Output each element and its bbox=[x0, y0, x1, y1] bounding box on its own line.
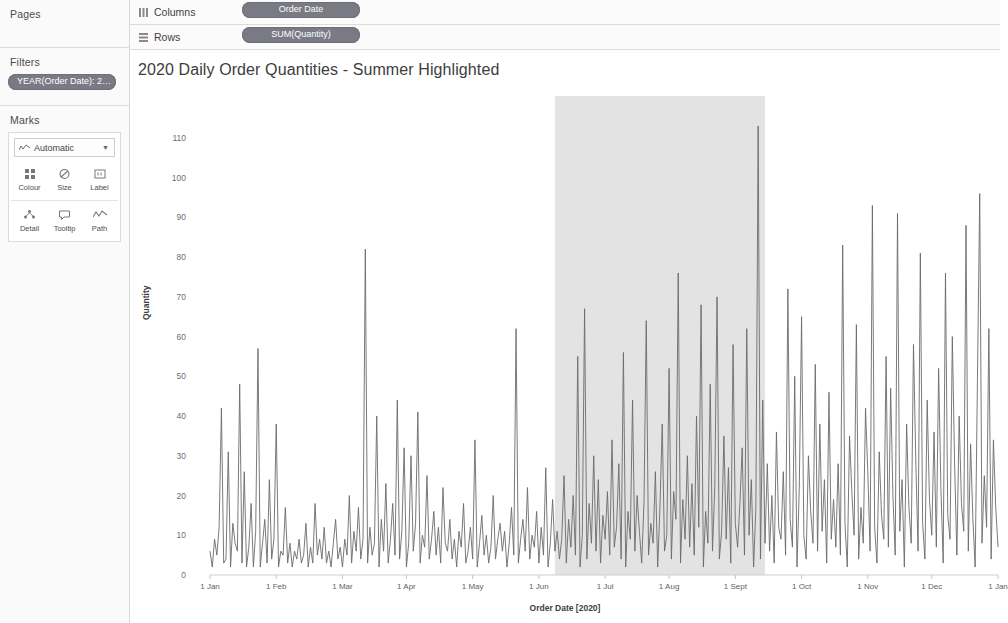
colour-icon bbox=[24, 167, 36, 181]
filters-shelf-title: Filters bbox=[10, 56, 121, 68]
line-chart bbox=[130, 50, 1000, 623]
rows-icon bbox=[137, 33, 149, 42]
viz-pane: 2020 Daily Order Quantities - Summer Hig… bbox=[130, 50, 1000, 623]
pill-order-date[interactable]: Order Date bbox=[242, 2, 360, 18]
filter-pill-year-order-date[interactable]: YEAR(Order Date): 2… bbox=[8, 74, 116, 90]
marks-label-label: Label bbox=[90, 183, 108, 192]
tooltip-icon bbox=[58, 208, 71, 222]
columns-icon bbox=[137, 8, 149, 17]
marks-size-label: Size bbox=[57, 183, 72, 192]
pages-shelf[interactable]: Pages bbox=[0, 0, 129, 48]
marks-size-button[interactable]: Size bbox=[47, 163, 82, 195]
marks-buttons-row-2: Detail Tooltip Path bbox=[9, 204, 120, 241]
marks-card-title: Marks bbox=[10, 114, 121, 126]
mark-type-dropdown[interactable]: Automatic ▼ bbox=[14, 138, 115, 157]
pages-shelf-title: Pages bbox=[10, 8, 121, 20]
left-sidebar: Pages Filters YEAR(Order Date): 2… Marks… bbox=[0, 0, 130, 623]
marks-colour-label: Colour bbox=[18, 183, 40, 192]
chevron-down-icon[interactable]: ▼ bbox=[102, 144, 109, 151]
rows-pill-wrap: SUM(Quantity) bbox=[242, 27, 360, 47]
marks-label-button[interactable]: Label bbox=[82, 163, 117, 195]
marks-path-button[interactable]: Path bbox=[82, 204, 117, 236]
rows-shelf-label: Rows bbox=[154, 31, 220, 43]
size-icon bbox=[58, 167, 71, 181]
columns-shelf[interactable]: Columns Order Date bbox=[130, 0, 1000, 25]
marks-tooltip-label: Tooltip bbox=[54, 224, 76, 233]
rows-shelf[interactable]: Rows SUM(Quantity) bbox=[130, 25, 1000, 50]
marks-box: Automatic ▼ Colour bbox=[8, 132, 121, 242]
filters-shelf[interactable]: Filters YEAR(Order Date): 2… bbox=[0, 48, 129, 106]
marks-detail-label: Detail bbox=[20, 224, 39, 233]
path-icon bbox=[93, 208, 107, 222]
marks-divider bbox=[11, 200, 118, 201]
detail-icon bbox=[23, 208, 36, 222]
marks-card: Marks Automatic ▼ bbox=[0, 106, 129, 248]
shelves-header: Columns Order Date Rows SUM(Quantity) bbox=[130, 0, 1000, 50]
columns-shelf-label: Columns bbox=[154, 6, 220, 18]
plot-area[interactable]: Quantity 0102030405060708090100110 1 Jan… bbox=[130, 50, 1000, 623]
mark-type-value: Automatic bbox=[34, 143, 74, 153]
marks-path-label: Path bbox=[92, 224, 107, 233]
marks-detail-button[interactable]: Detail bbox=[12, 204, 47, 236]
pill-sum-quantity[interactable]: SUM(Quantity) bbox=[242, 27, 360, 43]
label-icon bbox=[94, 167, 106, 181]
marks-buttons-row-1: Colour Size Label bbox=[9, 163, 120, 200]
line-mark-icon bbox=[19, 144, 30, 152]
marks-tooltip-button[interactable]: Tooltip bbox=[47, 204, 82, 236]
marks-colour-button[interactable]: Colour bbox=[12, 163, 47, 195]
columns-pill-wrap: Order Date bbox=[242, 2, 360, 22]
